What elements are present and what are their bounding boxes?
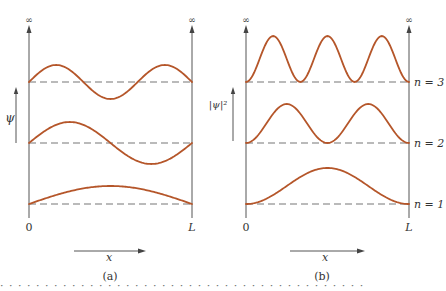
- y-axis-label: |ψ|²: [209, 99, 228, 111]
- infinity-label: ∞: [188, 15, 196, 25]
- x-end-label: L: [187, 221, 195, 234]
- x-axis-label: x: [322, 251, 329, 264]
- wavefunction-curve-n1: [29, 186, 192, 204]
- x-end-label: L: [404, 221, 412, 234]
- probability-density-curve-n1: [246, 168, 409, 204]
- x-axis-label: x: [106, 251, 113, 264]
- arrow-up-icon: [14, 87, 18, 94]
- quantum-number-labels: n = 3n = 2n = 1: [414, 76, 444, 211]
- arrow-up-icon: [407, 25, 412, 33]
- arrow-up-icon: [190, 25, 195, 33]
- probability-density-curves: [246, 36, 409, 204]
- arrow-up-icon: [244, 25, 249, 33]
- wavefunction-curves: [29, 65, 192, 204]
- arrow-right-icon: [357, 249, 365, 254]
- panel-a-wavefunctions: ∞ ∞ ψ 0 L x (a): [5, 15, 195, 283]
- infinity-label: ∞: [405, 15, 413, 25]
- quantum-number-label-n3: n = 3: [414, 76, 444, 89]
- quantum-number-label-n2: n = 2: [414, 137, 444, 150]
- panel-b-probability-densities: ∞ ∞ |ψ|² n = 3n = 2n = 1 0 L x (b): [209, 15, 445, 283]
- probability-density-curve-n2: [246, 104, 409, 143]
- infinity-label: ∞: [25, 15, 33, 25]
- quantum-number-label-n1: n = 1: [414, 198, 444, 211]
- arrow-right-icon: [138, 249, 146, 254]
- x-start-label: 0: [26, 221, 33, 234]
- y-axis-label: ψ: [5, 111, 15, 125]
- panel-caption: (a): [102, 270, 117, 283]
- panel-caption: (b): [314, 270, 330, 283]
- cut-off-caption-line: · · · · · · · · · · · · · · · · · · · · …: [0, 285, 446, 291]
- arrow-up-icon: [231, 87, 235, 94]
- x-start-label: 0: [243, 221, 250, 234]
- particle-in-box-figure: ∞ ∞ ψ 0 L x (a) ∞ ∞ |ψ|² n = 3n = 2n = 1…: [0, 0, 446, 291]
- infinity-label: ∞: [242, 15, 250, 25]
- arrow-up-icon: [27, 25, 32, 33]
- cut-off-caption-text: · · · · · · · · · · · · · · · · · · · · …: [0, 285, 446, 291]
- probability-density-curve-n3: [246, 36, 409, 82]
